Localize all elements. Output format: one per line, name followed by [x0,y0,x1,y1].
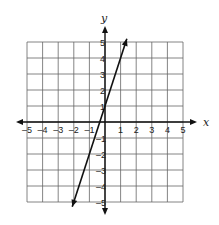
x-tick-label: 3 [149,125,154,135]
x-tick-label: 1 [118,125,123,135]
y-tick-label: 4 [100,54,105,64]
y-tick-label: 3 [100,70,105,80]
axes [16,26,197,215]
x-tick-label: 4 [165,125,170,135]
y-tick-label: –3 [96,166,106,176]
x-tick-label: –5 [22,125,32,135]
x-tick-label: –2 [69,125,79,135]
y-tick-label: –2 [96,150,106,160]
y-tick-label: 2 [100,86,105,96]
y-axis-label: y [100,12,108,25]
line-arrow-up-icon [122,39,128,47]
y-tick-label: –5 [96,198,106,208]
x-axis-label: x [203,116,210,129]
y-tick-label: 5 [100,38,105,48]
coordinate-plane: –5–4–3–2–11234554321–1–2–3–4–5 x y [0,0,219,225]
x-tick-label: –4 [38,125,48,135]
x-tick-label: 2 [134,125,139,135]
x-tick-label: –1 [84,125,94,135]
arrow-down-icon [102,208,108,215]
x-tick-label: –3 [53,125,63,135]
y-tick-label: –1 [96,134,106,144]
line-arrow-down-icon [72,199,78,207]
arrow-right-icon [190,119,197,125]
x-tick-label: 5 [181,125,186,135]
arrow-up-icon [102,26,108,33]
y-tick-label: –4 [96,182,106,192]
